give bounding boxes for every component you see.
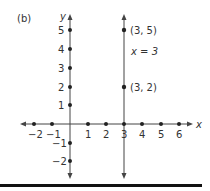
point-3-5	[122, 28, 126, 32]
svg-text:3: 3	[58, 63, 64, 74]
point-3-5-label: (3, 5)	[130, 25, 157, 36]
svg-text:−2: −2	[28, 129, 43, 140]
y-axis-label: y	[59, 11, 67, 22]
svg-text:3: 3	[121, 129, 127, 140]
svg-text:2: 2	[103, 129, 109, 140]
x-axis-left-arrow-icon	[20, 122, 26, 127]
point-3-2-label: (3, 2)	[130, 82, 157, 93]
line-up-arrow-icon	[122, 14, 127, 20]
svg-text:1: 1	[58, 100, 64, 111]
y-axis-up-arrow-icon	[68, 14, 73, 20]
svg-text:2: 2	[58, 82, 64, 93]
y-axis-down-arrow-icon	[68, 173, 73, 179]
svg-text:5: 5	[58, 25, 64, 36]
svg-text:4: 4	[58, 44, 64, 55]
svg-text:1: 1	[85, 129, 91, 140]
svg-text:5: 5	[158, 129, 164, 140]
line-equation-label: x = 3	[130, 46, 158, 57]
y-tick-labels: 5 4 3 2 1 −1 −2	[52, 25, 67, 167]
bottom-rule	[0, 184, 202, 187]
coordinate-plane: (b) x y −2 −1 1 2 3 4 5 6	[0, 0, 210, 191]
point-3-2	[122, 85, 126, 89]
svg-text:6: 6	[176, 129, 182, 140]
line-down-arrow-icon	[122, 173, 127, 179]
svg-text:4: 4	[139, 129, 145, 140]
svg-text:−1: −1	[52, 138, 67, 149]
panel-label: (b)	[17, 13, 31, 24]
x-axis-label: x	[195, 119, 202, 130]
x-axis-right-arrow-icon	[187, 122, 193, 127]
svg-text:−2: −2	[52, 156, 67, 167]
